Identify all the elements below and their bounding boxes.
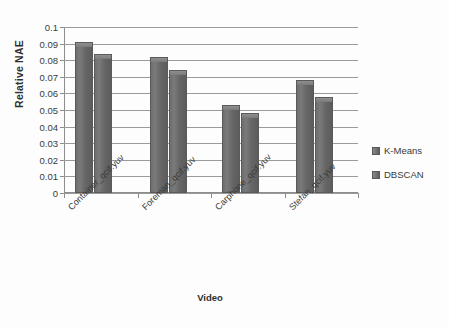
y-tick-mark	[60, 60, 64, 61]
bar-top-cap	[296, 80, 314, 85]
bar-top-cap	[222, 105, 240, 110]
y-tick-label: 0.09	[40, 38, 59, 49]
bar-chart: Relative NAE 0.10.090.080.070.060.050.04…	[0, 0, 449, 327]
bar-k-means[interactable]	[150, 57, 168, 193]
legend-swatch-icon	[372, 171, 380, 179]
bar-k-means[interactable]	[75, 42, 93, 193]
y-tick-label: 0	[53, 188, 58, 199]
y-tick-label: 0.06	[40, 88, 59, 99]
y-tick-label: 0.01	[40, 171, 59, 182]
y-tick-mark	[60, 77, 64, 78]
legend-swatch-icon	[372, 147, 380, 155]
x-tick-mark	[285, 193, 286, 198]
bar-top-cap	[315, 97, 333, 102]
y-tick-label: 0.08	[40, 55, 59, 66]
y-tick-label: 0.05	[40, 105, 59, 116]
y-tick-label: 0.1	[45, 22, 58, 33]
bar-top-cap	[169, 70, 187, 75]
bar-top-cap	[94, 54, 112, 59]
y-tick-mark	[60, 44, 64, 45]
x-tick-mark	[358, 193, 359, 198]
y-tick-label: 0.03	[40, 138, 59, 149]
bar-top-cap	[75, 42, 93, 47]
y-tick-mark	[60, 27, 64, 28]
y-tick-label: 0.02	[40, 154, 59, 165]
y-tick-mark	[60, 127, 64, 128]
y-tick-mark	[60, 176, 64, 177]
bar-top-cap	[150, 57, 168, 62]
x-tick-mark	[138, 193, 139, 198]
y-tick-label: 0.07	[40, 71, 59, 82]
y-tick-mark	[60, 143, 64, 144]
legend-entry[interactable]: DBSCAN	[372, 169, 448, 180]
legend-entry[interactable]: K-Means	[372, 145, 448, 156]
bar-k-means[interactable]	[296, 80, 314, 193]
y-tick-label: 0.04	[40, 121, 59, 132]
y-axis-title: Relative NAE	[13, 19, 25, 129]
y-tick-mark	[60, 160, 64, 161]
legend-label: K-Means	[384, 145, 422, 156]
chart-legend: K-MeansDBSCAN	[372, 145, 448, 193]
legend-label: DBSCAN	[384, 169, 424, 180]
y-tick-mark	[60, 93, 64, 94]
bar-top-cap	[241, 113, 259, 118]
y-tick-mark	[60, 110, 64, 111]
x-axis-title: Video	[60, 292, 360, 303]
x-tick-mark	[64, 193, 65, 198]
x-tick-mark	[211, 193, 212, 198]
